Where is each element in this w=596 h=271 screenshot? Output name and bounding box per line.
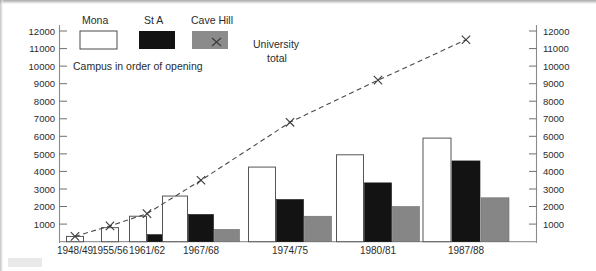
- x-marker-icon: [462, 36, 470, 44]
- right-tick-label: 8000: [543, 96, 564, 107]
- left-tick-label: 10000: [29, 61, 55, 72]
- bar-mona: [249, 167, 276, 242]
- right-tick-label: 5000: [543, 149, 564, 160]
- category-label: 1980/81: [360, 245, 397, 256]
- bar-mona: [423, 138, 451, 242]
- bar-cave-hill: [393, 207, 420, 242]
- series-annotation-line2: total: [267, 52, 287, 64]
- left-tick-label: 12000: [29, 26, 55, 37]
- legend-swatch-mona: [80, 31, 117, 49]
- left-tick-label: 11000: [29, 43, 55, 54]
- bar-st-augustine: [452, 161, 480, 242]
- left-tick-label: 8000: [34, 96, 55, 107]
- legend-note: Campus in order of opening: [73, 60, 203, 72]
- category-labels: 1948/491955/561961/621967/681974/751980/…: [57, 245, 485, 256]
- right-tick-label: 4000: [543, 166, 564, 177]
- bar-st-augustine: [189, 214, 214, 241]
- bar-st-augustine: [365, 183, 392, 242]
- bar-cave-hill: [481, 198, 509, 242]
- chart-figure: 12000 11000 10000 9000 8000 7000 6000 50…: [0, 0, 596, 271]
- page-scan-smudge: [8, 258, 42, 267]
- legend-swatch-sta: [139, 31, 175, 49]
- left-tick-label: 4000: [34, 166, 55, 177]
- bar-mona: [67, 236, 84, 241]
- bars-layer: [67, 138, 510, 242]
- right-axis: 12000 11000 10000 9000 8000 7000 6000 50…: [529, 25, 569, 243]
- bar-mona: [337, 155, 364, 242]
- left-axis: 12000 11000 10000 9000 8000 7000 6000 50…: [29, 25, 67, 243]
- category-label: 1974/75: [272, 245, 309, 256]
- left-tick-label: 3000: [34, 184, 55, 195]
- category-label: 1967/68: [183, 245, 220, 256]
- legend-swatch-cave-hill: [192, 31, 228, 49]
- right-tick-label: 7000: [543, 113, 564, 124]
- legend-label-cave-hill: Cave Hill: [191, 14, 233, 26]
- x-marker-icon: [197, 176, 205, 184]
- x-marker-icon: [374, 76, 382, 84]
- chart-legend: Mona St A Cave Hill Campus in order of o…: [73, 14, 233, 72]
- category-label: 1961/62: [129, 245, 166, 256]
- bar-mona: [163, 196, 188, 242]
- right-tick-label: 9000: [543, 78, 564, 89]
- category-label: 1987/88: [448, 245, 485, 256]
- category-label: 1948/49: [57, 245, 94, 256]
- legend-label-sta: St A: [144, 14, 163, 26]
- left-tick-label: 1000: [34, 219, 55, 230]
- right-tick-label: 6000: [543, 131, 564, 142]
- left-tick-label: 2000: [34, 201, 55, 212]
- x-marker-icon: [286, 118, 294, 126]
- right-tick-label: 1000: [543, 219, 564, 230]
- category-label: 1955/56: [92, 245, 129, 256]
- series-annotation-line1: University: [253, 38, 300, 50]
- bar-mona: [102, 228, 119, 242]
- chart-plot-area: 12000 11000 10000 9000 8000 7000 6000 50…: [0, 0, 596, 271]
- left-tick-label: 7000: [34, 113, 55, 124]
- right-tick-label: 10000: [543, 61, 569, 72]
- bar-st-augustine: [277, 200, 304, 242]
- left-tick-label: 6000: [34, 131, 55, 142]
- left-tick-label: 5000: [34, 149, 55, 160]
- right-tick-label: 3000: [543, 184, 564, 195]
- bar-cave-hill: [305, 216, 332, 241]
- bar-cave-hill: [215, 229, 240, 241]
- legend-label-mona: Mona: [82, 14, 108, 26]
- left-tick-label: 9000: [34, 78, 55, 89]
- right-tick-label: 11000: [543, 43, 569, 54]
- right-tick-label: 2000: [543, 201, 564, 212]
- bar-st-augustine: [148, 235, 165, 242]
- bar-mona: [130, 216, 147, 241]
- right-tick-label: 12000: [543, 26, 569, 37]
